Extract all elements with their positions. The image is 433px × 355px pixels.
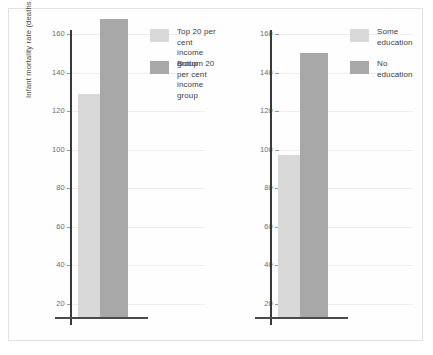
- y-axis-title: Infant mortality rate (deaths per 1,000 …: [24, 0, 33, 98]
- y-axis-line: [70, 30, 72, 325]
- chart-panel-education: 160 140 120 100 80 60 40 20 Some educati…: [208, 0, 424, 355]
- bar-some-education: [278, 155, 300, 317]
- y-tick-60: 60: [41, 223, 65, 231]
- x-axis-line: [55, 317, 148, 319]
- legend-swatch-light: [150, 29, 169, 42]
- y-tickmark-160: [275, 34, 279, 35]
- y-tick-100: 100: [41, 146, 65, 154]
- y-tick-160: 160: [41, 30, 65, 38]
- legend-income: Top 20 per cent income group Bottom 20 p…: [150, 28, 216, 92]
- bar-bottom-20-income: [100, 19, 128, 317]
- chart-panel-income: Infant mortality rate (deaths per 1,000 …: [0, 0, 216, 355]
- legend-swatch-dark: [150, 61, 169, 74]
- legend-swatch-light: [350, 29, 369, 42]
- bar-top-20-income: [78, 94, 100, 317]
- legend-item-some-education[interactable]: Some education: [350, 28, 420, 52]
- legend-education: Some education No education: [350, 28, 420, 92]
- y-tick-140: 140: [41, 69, 65, 77]
- legend-item-bottom-20[interactable]: Bottom 20 per cent income group: [150, 60, 216, 84]
- y-tick-20: 20: [41, 300, 65, 308]
- chart-figure: Infant mortality rate (deaths per 1,000 …: [0, 0, 433, 355]
- bar-no-education: [300, 53, 328, 317]
- y-tickmark-120: [275, 111, 279, 112]
- legend-label-no-education: No education: [377, 59, 413, 80]
- legend-swatch-dark: [350, 61, 369, 74]
- y-tick-40: 40: [41, 261, 65, 269]
- y-tickmark-100: [275, 150, 279, 151]
- legend-item-no-education[interactable]: No education: [350, 60, 420, 84]
- y-tickmark-140: [275, 73, 279, 74]
- y-tick-120: 120: [41, 107, 65, 115]
- x-axis-line: [255, 317, 348, 319]
- legend-label-some-education: Some education: [377, 27, 413, 48]
- y-tick-80: 80: [41, 184, 65, 192]
- legend-item-top-20[interactable]: Top 20 per cent income group: [150, 28, 216, 52]
- y-axis-line: [270, 30, 272, 325]
